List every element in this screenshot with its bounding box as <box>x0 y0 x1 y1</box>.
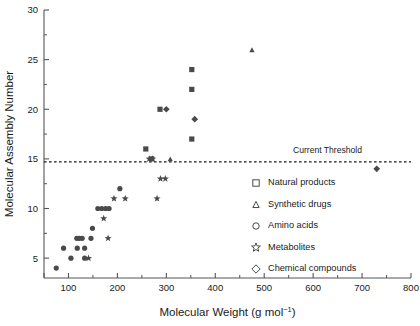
y-tick-label: 25 <box>27 54 38 65</box>
x-tick-label: 400 <box>207 282 223 293</box>
data-point <box>75 246 80 251</box>
legend-glyph-triangle <box>253 201 259 207</box>
y-axis-title: Molecular Assembly Number <box>3 71 15 218</box>
data-point <box>143 146 148 151</box>
data-point <box>122 195 129 202</box>
y-tick-label: 5 <box>33 253 38 264</box>
legend-glyph-square <box>253 180 259 186</box>
x-tick-label: 500 <box>256 282 272 293</box>
data-point <box>117 186 122 191</box>
legend-glyph-diamond <box>252 265 260 273</box>
legend-label: Chemical compounds <box>268 263 357 273</box>
scatter-chart-figure: 51015202530100200300400500600700800Molec… <box>0 0 420 326</box>
data-point <box>189 87 194 92</box>
data-point <box>110 195 117 202</box>
series-natural-products <box>143 67 194 162</box>
data-point <box>191 116 198 123</box>
data-point <box>168 156 173 161</box>
data-point <box>82 246 87 251</box>
data-point <box>189 67 194 72</box>
data-point <box>88 236 93 241</box>
legend-label: Natural products <box>268 177 336 187</box>
plot-canvas: 51015202530100200300400500600700800Molec… <box>0 0 420 326</box>
data-point <box>249 47 254 52</box>
legend-glyph-circle <box>253 223 259 229</box>
data-point <box>80 236 85 241</box>
legend-label: Amino acids <box>268 220 318 230</box>
series-synthetic-drugs <box>168 47 255 161</box>
x-tick-label: 800 <box>403 282 419 293</box>
x-tick-label: 200 <box>109 282 125 293</box>
x-tick-label: 600 <box>305 282 321 293</box>
data-point <box>162 175 169 182</box>
y-tick-label: 30 <box>27 4 38 15</box>
x-tick-label: 100 <box>61 282 77 293</box>
data-point <box>54 265 59 270</box>
data-point <box>189 136 194 141</box>
x-axis-title: Molecular Weight (g mol−1) <box>159 305 295 319</box>
x-tick-label: 300 <box>158 282 174 293</box>
data-point <box>68 256 73 261</box>
current-threshold-label: Current Threshold <box>293 145 362 155</box>
data-point <box>153 195 160 202</box>
data-point <box>105 235 112 242</box>
data-point <box>373 165 380 172</box>
data-point <box>100 215 107 222</box>
y-tick-label: 15 <box>27 153 38 164</box>
y-tick-label: 10 <box>27 203 38 214</box>
data-point <box>157 107 162 112</box>
data-point <box>61 246 66 251</box>
data-point <box>163 106 170 113</box>
legend-label: Synthetic drugs <box>268 199 332 209</box>
data-point <box>90 226 95 231</box>
legend-glyph-star <box>252 243 261 251</box>
data-point <box>106 206 111 211</box>
y-tick-label: 20 <box>27 104 38 115</box>
x-tick-label: 700 <box>354 282 370 293</box>
legend-label: Metabolites <box>268 242 315 252</box>
